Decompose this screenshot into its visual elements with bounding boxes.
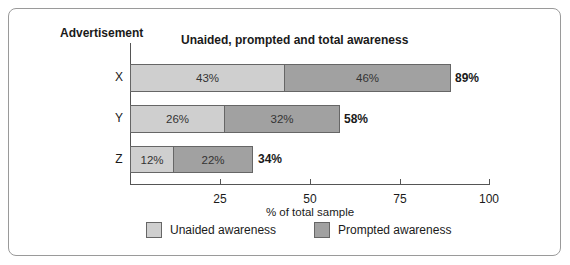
category-axis-title: Advertisement: [60, 26, 143, 40]
x-tick-100: [489, 179, 490, 184]
x-tick-50: [310, 179, 311, 184]
bar-value: 46%: [356, 72, 379, 84]
category-label-x: X: [113, 70, 125, 84]
category-label-y: Y: [113, 111, 125, 125]
legend-label: Prompted awareness: [338, 223, 451, 237]
legend-item-prompted: Prompted awareness: [314, 222, 451, 238]
bar-x-total: 89%: [455, 71, 479, 85]
x-tick-label: 50: [303, 192, 316, 206]
bar-value: 26%: [166, 113, 189, 125]
bar-value: 32%: [270, 113, 293, 125]
x-tick-label: 75: [393, 192, 406, 206]
bar-x-unaided: 43%: [130, 64, 285, 92]
legend-label: Unaided awareness: [170, 223, 276, 237]
bar-y-total: 58%: [344, 112, 368, 126]
x-tick-label: 100: [479, 192, 499, 206]
legend-swatch-unaided: [146, 222, 162, 238]
bar-value: 22%: [201, 154, 224, 166]
bar-x-prompted: 46%: [284, 64, 451, 92]
bar-value: 43%: [196, 72, 219, 84]
bar-z-prompted: 22%: [173, 146, 253, 173]
bar-value: 12%: [140, 154, 163, 166]
x-tick-label: 25: [213, 192, 226, 206]
x-tick-75: [400, 179, 401, 184]
bar-z-total: 34%: [258, 152, 282, 166]
bar-z-unaided: 12%: [130, 146, 174, 173]
bar-y-unaided: 26%: [130, 105, 225, 133]
x-axis-label: % of total sample: [266, 206, 354, 218]
category-label-z: Z: [113, 152, 125, 166]
chart-title: Unaided, prompted and total awareness: [181, 33, 408, 47]
x-axis-line: [130, 184, 490, 185]
bar-y-prompted: 32%: [224, 105, 340, 133]
legend-swatch-prompted: [314, 222, 330, 238]
legend-item-unaided: Unaided awareness: [146, 222, 276, 238]
x-tick-25: [220, 179, 221, 184]
